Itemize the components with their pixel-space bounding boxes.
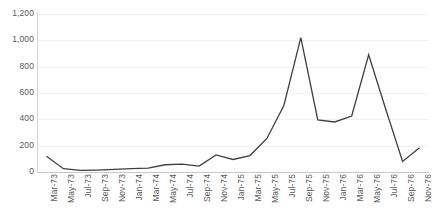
x-tick-label: May-75 — [271, 174, 280, 220]
x-tick-label: Mar-76 — [356, 174, 365, 220]
y-axis: 02004006008001,0001,200 — [0, 0, 34, 223]
x-tick-label: May-76 — [373, 174, 382, 220]
x-tick-label: Jan-75 — [237, 174, 246, 220]
x-tick-label: Nov-74 — [220, 174, 229, 220]
plot-area — [38, 14, 428, 172]
x-tick-label: Sep-74 — [203, 174, 212, 220]
x-tick-label: Mar-73 — [50, 174, 59, 220]
series-polyline — [46, 38, 419, 171]
x-tick-label: May-74 — [169, 174, 178, 220]
y-tick-label: 400 — [0, 114, 34, 123]
x-tick-label: Jul-75 — [288, 174, 297, 220]
y-tick-label: 600 — [0, 88, 34, 97]
x-tick-label: Sep-73 — [101, 174, 110, 220]
x-tick-label: May-73 — [67, 174, 76, 220]
x-axis: Mar-73May-73Jul-73Sep-73Nov-73Jan-74Mar-… — [38, 174, 428, 223]
y-tick-label: 1,200 — [0, 9, 34, 18]
x-tick-label: Nov-73 — [118, 174, 127, 220]
x-tick-label: Nov-76 — [424, 174, 433, 220]
x-tick-label: Mar-75 — [254, 174, 263, 220]
x-tick-label: Sep-76 — [407, 174, 416, 220]
x-tick-label: Jul-74 — [186, 174, 195, 220]
x-axis-line — [37, 172, 429, 173]
y-tick-label: 800 — [0, 62, 34, 71]
x-tick-label: Mar-74 — [152, 174, 161, 220]
series-line — [38, 14, 428, 172]
x-tick-label: Jan-76 — [339, 174, 348, 220]
y-tick-label: 1,000 — [0, 35, 34, 44]
x-tick-label: Jan-74 — [135, 174, 144, 220]
y-tick-label: 200 — [0, 141, 34, 150]
x-tick-label: Jul-76 — [390, 174, 399, 220]
x-tick-label: Nov-75 — [322, 174, 331, 220]
x-tick-label: Sep-75 — [305, 174, 314, 220]
y-tick-label: 0 — [0, 167, 34, 176]
x-tick-label: Jul-73 — [84, 174, 93, 220]
line-chart: 02004006008001,0001,200 Mar-73May-73Jul-… — [0, 0, 441, 223]
